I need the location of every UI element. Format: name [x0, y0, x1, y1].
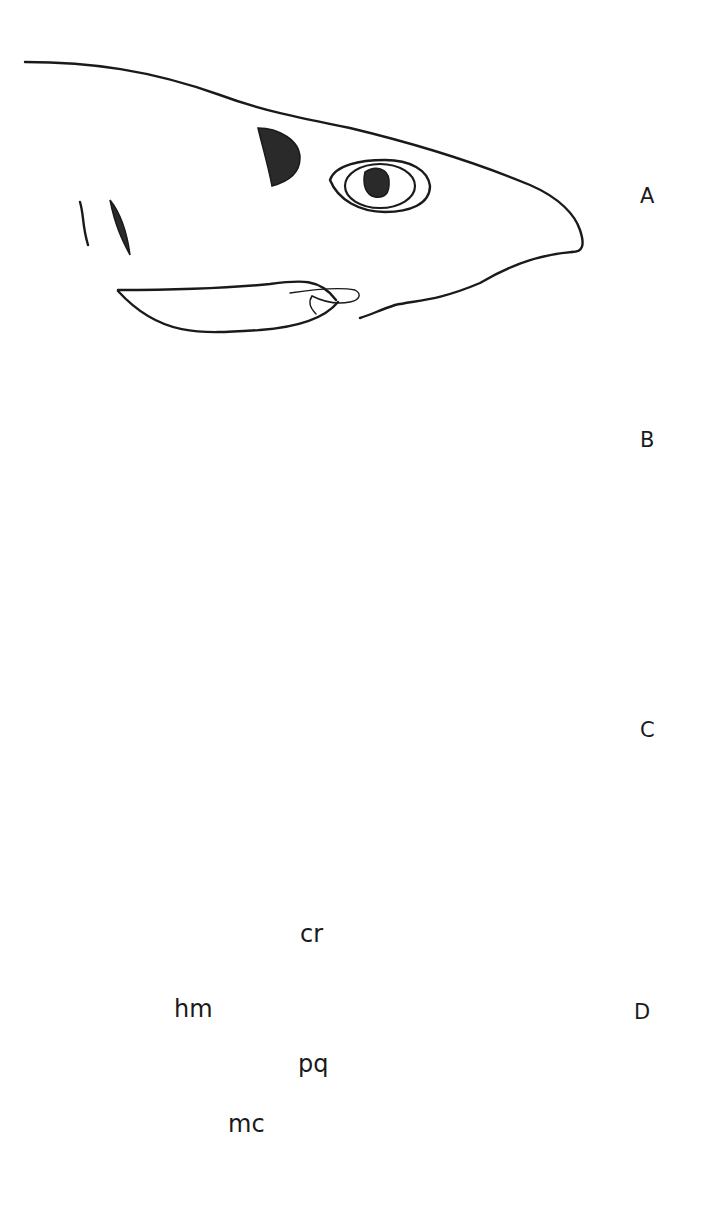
- label-palatoquadrate: pq: [298, 1050, 328, 1078]
- panel-label-d: D: [634, 1000, 650, 1024]
- shark-jaw-figure: [0, 0, 708, 1211]
- panel-label-c: C: [640, 718, 655, 742]
- label-hyomandibula: hm: [174, 995, 213, 1023]
- label-cranium: cr: [300, 920, 323, 948]
- panel-label-a: A: [640, 184, 654, 208]
- label-meckels-cartilage: mc: [228, 1110, 265, 1138]
- panel-label-b: B: [640, 428, 654, 452]
- panel-a-drawing: [25, 62, 583, 332]
